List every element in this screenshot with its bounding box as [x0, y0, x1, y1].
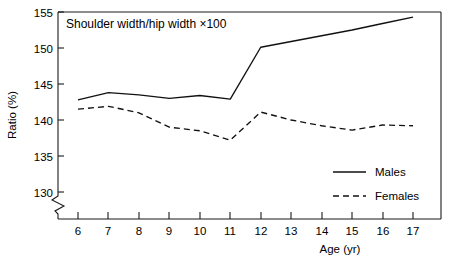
y-tick-label-130: 130 — [34, 187, 53, 199]
chart-container: 155 150 145 140 135 130 6 7 8 — [0, 0, 450, 268]
data-series-group — [78, 17, 413, 140]
y-axis-title: Ratio (%) — [6, 91, 18, 139]
x-tick-label-17: 17 — [407, 225, 420, 237]
chart-title: Shoulder width/hip width ×100 — [66, 17, 227, 31]
legend-label-males: Males — [375, 166, 406, 178]
x-tick-label-6: 6 — [75, 225, 81, 237]
y-tick-label-135: 135 — [34, 151, 53, 163]
x-tick-label-9: 9 — [166, 225, 172, 237]
x-tick-label-13: 13 — [285, 225, 298, 237]
x-tick-label-11: 11 — [224, 225, 236, 237]
y-axis-break-icon — [52, 192, 64, 219]
x-tick-label-10: 10 — [194, 225, 207, 237]
series-line-females — [78, 106, 413, 140]
y-axis-tick-labels: 155 150 145 140 135 130 — [34, 7, 53, 199]
ratio-vs-age-line-chart: 155 150 145 140 135 130 6 7 8 — [0, 0, 450, 268]
y-axis-ticks — [58, 12, 64, 192]
x-tick-label-12: 12 — [255, 225, 268, 237]
x-tick-label-16: 16 — [377, 225, 390, 237]
legend-label-females: Females — [375, 190, 419, 202]
chart-axes — [52, 12, 441, 219]
y-tick-label-140: 140 — [34, 115, 53, 127]
chart-legend: Males Females — [333, 166, 419, 202]
x-axis-tick-labels: 6 7 8 9 10 11 12 13 14 15 16 17 — [75, 225, 420, 237]
x-axis-ticks — [78, 212, 413, 219]
y-tick-label-150: 150 — [34, 43, 53, 55]
x-tick-label-15: 15 — [346, 225, 359, 237]
x-tick-label-7: 7 — [105, 225, 111, 237]
x-tick-label-8: 8 — [136, 225, 142, 237]
x-tick-label-14: 14 — [316, 225, 329, 237]
x-axis-title: Age (yr) — [320, 243, 361, 255]
y-tick-label-145: 145 — [34, 79, 53, 91]
y-tick-label-155: 155 — [34, 7, 53, 19]
